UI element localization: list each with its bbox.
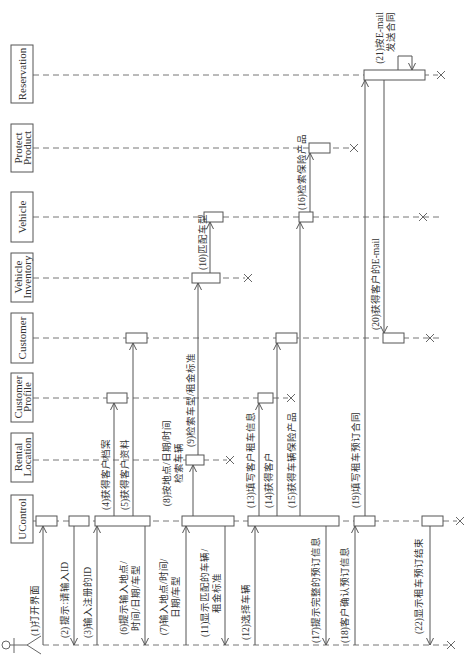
header-label: Reservation	[16, 47, 28, 100]
header-customer: Customer	[11, 313, 33, 363]
destroy-x-icon	[456, 517, 464, 525]
header-label: Vehicle	[16, 200, 28, 233]
header-reservation: Reservation	[11, 45, 33, 103]
header-label: Location	[21, 437, 33, 477]
destroy-x-icon	[226, 456, 234, 464]
destroy-x-icon	[437, 71, 445, 79]
activation-vehicle	[299, 212, 313, 222]
message-5-label: (5)获得客户资料	[119, 439, 131, 510]
message-6-label: (6)提示输入地点/	[118, 561, 130, 635]
activation-ucontrol	[422, 516, 443, 526]
message-3-label: (3)输入注册的ID	[82, 567, 94, 638]
activation-vehicle-inventory	[192, 273, 220, 283]
activations	[36, 70, 443, 526]
message-14-label: (14)获得客户	[263, 452, 275, 508]
message-21-label: (21)按E-mail	[374, 12, 386, 64]
activation-customer-profile	[107, 393, 127, 403]
activation-ucontrol	[182, 516, 234, 526]
header-rental-location: Rental Location	[11, 433, 33, 482]
message-16-label: (16)检索保险产品	[296, 134, 308, 210]
message-20-label: (20)获得客户的E-mail	[370, 238, 382, 330]
message-9-label: (9)检索车型/租金标准	[185, 353, 197, 447]
message-11-label: 租金标准	[211, 573, 222, 613]
activation-ucontrol	[36, 516, 57, 526]
destroy-x-icon	[287, 394, 295, 402]
message-2-label: (2) 提示:请输入ID	[59, 562, 71, 638]
message-6-label: 时间/日期/车型	[130, 565, 141, 630]
activation-ucontrol	[95, 516, 150, 526]
message-7-label: (7)输入地点/时间/	[158, 558, 170, 635]
header-label: UControl	[16, 498, 28, 540]
header-vehicle: Vehicle	[11, 192, 33, 242]
message-21-self-arrow	[398, 56, 412, 70]
destroy-x-icon	[447, 641, 455, 649]
message-17-label: (17)提示完整的预订信息	[310, 537, 322, 643]
message-15-label: (15)获得车辆保险产品	[286, 412, 298, 508]
header-vehicle-inventory: Vehicle Inventory	[11, 253, 33, 302]
message-10-label: (10)匹配车型	[197, 214, 209, 270]
sequence-diagram: Reservation Protect Product Vehicle Vehi…	[0, 0, 475, 658]
header-customer-profile: Customer Profile	[11, 373, 33, 422]
message-8-label: (8)按地点/日期/时间	[161, 420, 173, 506]
activation-customer	[126, 333, 147, 343]
header-label: Profile	[21, 382, 33, 412]
activation-customer-profile	[258, 393, 273, 403]
message-1-label: (1)打开界面	[29, 585, 41, 636]
message-4-label: (4)获得客户档案	[100, 439, 112, 510]
message-11-label: (11)显示匹配的车辆/	[199, 549, 211, 637]
message-21-label: 发送合同	[385, 12, 396, 52]
activation-ucontrol	[69, 516, 89, 526]
header-label: Inventory	[21, 255, 33, 298]
destroy-x-icon	[350, 144, 358, 152]
activation-customer	[276, 333, 297, 343]
message-7-label: 日期/车型	[170, 576, 181, 619]
activation-protect-product	[309, 143, 330, 153]
message-8-label: 检索车辆	[173, 443, 184, 483]
message-19-label: (19)填写租车预订合同	[350, 412, 362, 508]
actor-icon	[2, 636, 41, 654]
lifeline-headers: Reservation Protect Product Vehicle Vehi…	[11, 45, 33, 543]
header-protect-product: Protect Product	[11, 124, 33, 172]
message-22-label: (22)显示租车预订结束	[413, 538, 425, 634]
activation-reservation	[364, 70, 425, 80]
activation-rental-location	[186, 455, 204, 465]
destroy-x-icon	[244, 274, 252, 282]
header-ucontrol: UControl	[11, 495, 33, 543]
message-18-label: (18)客户确认预订信息	[339, 547, 351, 643]
message-lines	[40, 56, 434, 645]
activation-ucontrol	[248, 516, 339, 526]
activation-customer	[383, 333, 404, 343]
header-label: Product	[21, 131, 33, 165]
activation-ucontrol	[354, 516, 375, 526]
message-13-label: (13)填写客户租车信息	[245, 412, 257, 508]
header-label: Customer	[16, 316, 28, 359]
message-12-label: (12)选择车辆	[240, 584, 252, 640]
message-labels: (1)打开界面 (2) 提示:请输入ID (3)输入注册的ID (4)获得客户档…	[29, 12, 425, 643]
